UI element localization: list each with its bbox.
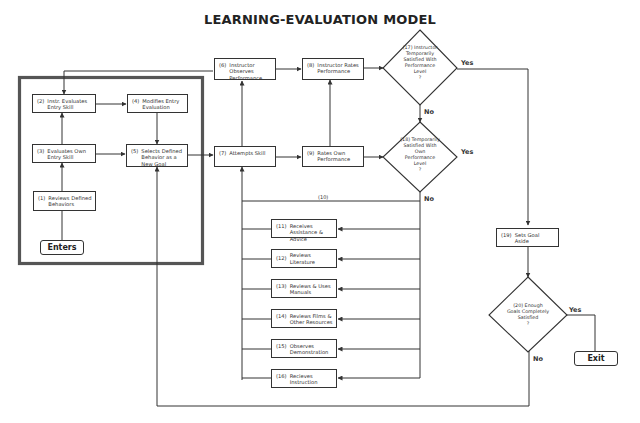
step-5-selects-defined-behavior: (5)Selects Defined Behavior as a New Goa… <box>126 144 188 167</box>
decision-18-text: (18) Temporarily Satisfied With Own Perf… <box>390 137 450 173</box>
d17-no-label: No <box>424 108 434 116</box>
step-3-evaluates-own-entry-skill: (3)Evaluates Own Entry Skill <box>32 144 96 163</box>
step-8-instructor-rates-performance: (8)Instructor Rates Performance <box>302 58 364 80</box>
d20-yes-label: Yes <box>569 306 581 314</box>
step-6-instructor-observes-performance: (6)Instructor Observes Performance <box>214 58 276 80</box>
decision-20-text: (20) Enough Goals Completely Satisfied ? <box>500 303 556 327</box>
d18-no-label: No <box>424 195 434 203</box>
d17-yes-label: Yes <box>461 59 473 67</box>
step-1-reviews-defined-behaviors: (1)Reviews Defined Behaviors <box>33 191 96 211</box>
exit-terminal: Exit <box>574 351 618 366</box>
enters-terminal: Enters <box>40 240 84 255</box>
step-4-modifies-entry-evaluation: (4)Modifies Entry Evaluation <box>127 94 188 113</box>
step-19-sets-goal-aside: (19)Sets Goal Aside <box>496 228 559 247</box>
decision-17-text: (17) Instructor Temporarily Satisfied Wi… <box>392 45 448 81</box>
step-14-reviews-films-resources: (14)Reviews Films & Other Resources <box>271 309 337 328</box>
step-16-recieves-instruction: (16)Recieves Instruction <box>271 369 337 388</box>
step-7-attempts-skill: (7)Attempts Skill <box>214 146 276 167</box>
learning-evaluation-diagram: LEARNING-EVALUATION MODEL <box>0 0 640 423</box>
step-12-reviews-literature: (12)Reviews Literature <box>271 249 337 268</box>
step-13-reviews-uses-manuals: (13)Reviews & Uses Manuals <box>271 279 337 298</box>
step-10-label: (10) <box>318 194 328 200</box>
step-2-instr-evaluates-entry-skill: (2)Instr. Evaluates Entry Skill <box>32 94 96 113</box>
step-11-receives-assistance: (11)Receives Assistance & Advice <box>271 219 337 238</box>
step-15-observes-demonstration: (15)Observes Demonstration <box>271 339 337 358</box>
step-9-rates-own-performance: (9)Rates Own Performance <box>302 146 364 167</box>
d20-no-label: No <box>533 355 543 363</box>
d18-yes-label: Yes <box>461 148 473 156</box>
